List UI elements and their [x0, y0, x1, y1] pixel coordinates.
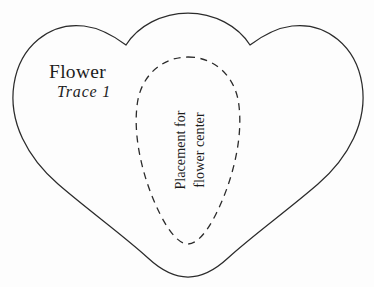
pattern-sheet: Flower Trace 1 Placement for flower cent… [0, 0, 374, 287]
placement-guide-caption: Placement for flower center [171, 75, 209, 225]
pattern-subtitle: Trace 1 [57, 83, 111, 101]
placement-caption-line-2: flower center [190, 75, 209, 225]
placement-caption-line-1: Placement for [171, 75, 190, 225]
pattern-title: Flower [49, 61, 106, 83]
